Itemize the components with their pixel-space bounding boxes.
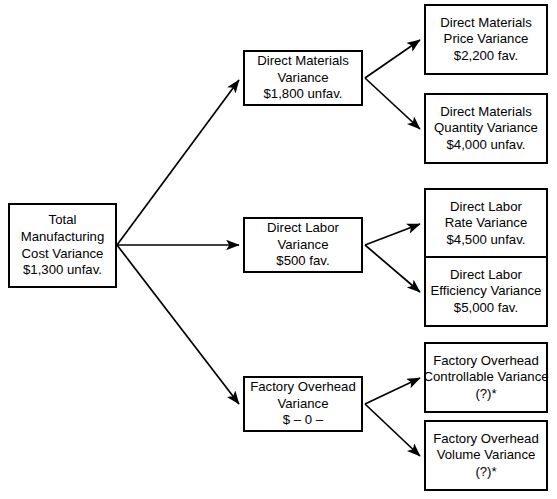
node-line-2: Volume Variance bbox=[437, 447, 536, 464]
node-direct-labor-efficiency-variance[interactable]: Direct Labor Efficiency Variance $5,000 … bbox=[424, 256, 548, 327]
node-amount: $ – 0 – bbox=[283, 412, 323, 429]
node-amount: $1,300 unfav. bbox=[23, 262, 102, 279]
node-line-2: Efficiency Variance bbox=[431, 283, 542, 300]
node-line-1: Total bbox=[49, 212, 77, 229]
edge-overhead-to-controllable bbox=[365, 378, 420, 404]
edge-materials-to-quantity bbox=[365, 78, 420, 129]
node-amount: (?)* bbox=[475, 386, 496, 403]
node-amount: $5,000 fav. bbox=[454, 300, 518, 317]
node-line-2: Price Variance bbox=[444, 31, 529, 48]
node-line-2: Quantity Variance bbox=[434, 120, 538, 137]
node-line-1: Direct Labor bbox=[450, 267, 522, 284]
node-line-1: Direct Materials bbox=[440, 15, 532, 32]
node-amount: $2,200 fav. bbox=[454, 48, 518, 65]
node-line-2: Variance bbox=[277, 396, 328, 413]
node-factory-overhead-controllable-variance[interactable]: Factory Overhead Controllable Variance (… bbox=[424, 342, 548, 413]
node-line-2: Manufacturing bbox=[21, 229, 105, 246]
node-direct-labor-variance[interactable]: Direct Labor Variance $500 fav. bbox=[243, 217, 363, 273]
node-line-1: Factory Overhead bbox=[250, 379, 356, 396]
edge-labor-to-efficiency bbox=[365, 245, 420, 292]
edge-overhead-to-volume bbox=[365, 404, 420, 456]
node-amount: (?)* bbox=[475, 464, 496, 481]
node-line-1: Direct Materials bbox=[440, 104, 532, 121]
node-factory-overhead-variance[interactable]: Factory Overhead Variance $ – 0 – bbox=[243, 376, 363, 432]
node-line-1: Direct Labor bbox=[450, 199, 522, 216]
node-line-3: Cost Variance bbox=[22, 246, 104, 263]
node-total-manufacturing-cost-variance[interactable]: Total Manufacturing Cost Variance $1,300… bbox=[8, 203, 117, 288]
node-line-2: Controllable Variance bbox=[423, 369, 548, 386]
edge-total-to-materials bbox=[117, 80, 239, 245]
node-direct-materials-quantity-variance[interactable]: Direct Materials Quantity Variance $4,00… bbox=[424, 93, 548, 164]
node-line-1: Factory Overhead bbox=[433, 431, 539, 448]
node-direct-labor-rate-variance[interactable]: Direct Labor Rate Variance $4,500 unfav. bbox=[424, 188, 548, 259]
edge-materials-to-price bbox=[365, 40, 420, 78]
node-amount: $4,500 unfav. bbox=[447, 232, 526, 249]
node-amount: $4,000 unfav. bbox=[447, 137, 526, 154]
edge-labor-to-rate bbox=[365, 224, 420, 245]
node-line-2: Variance bbox=[277, 237, 328, 254]
node-amount: $500 fav. bbox=[276, 253, 329, 270]
node-line-1: Factory Overhead bbox=[433, 353, 539, 370]
node-line-2: Rate Variance bbox=[445, 215, 528, 232]
edge-total-to-overhead bbox=[117, 245, 239, 404]
node-line-2: Variance bbox=[277, 70, 328, 87]
node-direct-materials-price-variance[interactable]: Direct Materials Price Variance $2,200 f… bbox=[424, 4, 548, 75]
node-line-1: Direct Labor bbox=[267, 220, 339, 237]
node-direct-materials-variance[interactable]: Direct Materials Variance $1,800 unfav. bbox=[243, 50, 363, 106]
variance-tree-diagram: Total Manufacturing Cost Variance $1,300… bbox=[0, 0, 557, 499]
node-amount: $1,800 unfav. bbox=[264, 86, 343, 103]
node-factory-overhead-volume-variance[interactable]: Factory Overhead Volume Variance (?)* bbox=[424, 420, 548, 491]
node-line-1: Direct Materials bbox=[257, 53, 349, 70]
